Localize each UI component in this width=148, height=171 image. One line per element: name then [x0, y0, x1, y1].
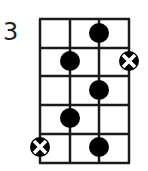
x-marker-icon	[30, 137, 50, 157]
finger-dot	[89, 80, 109, 100]
grid-lines	[39, 19, 130, 163]
finger-dot	[89, 137, 109, 157]
chord-grid	[0, 0, 148, 171]
finger-dot	[89, 23, 109, 43]
finger-dot	[60, 108, 80, 128]
x-marker-icon	[119, 51, 139, 71]
finger-dots	[60, 23, 109, 157]
finger-dot	[60, 51, 80, 71]
